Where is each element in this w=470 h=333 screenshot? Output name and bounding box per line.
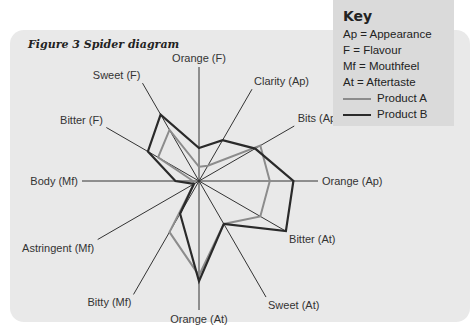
key-abbrev-appearance: Ap = Appearance xyxy=(343,28,432,40)
axis-label: Bitter (At) xyxy=(289,233,335,245)
axis-line xyxy=(199,89,252,181)
legend-label-product-a: Product A xyxy=(377,92,427,104)
legend-swatch-product-b xyxy=(343,114,371,116)
legend-swatch-product-a xyxy=(343,98,371,100)
legend-label-product-b: Product B xyxy=(377,108,428,120)
axis-label: Orange (F) xyxy=(172,52,226,64)
axis-line xyxy=(199,181,286,231)
series-polygon-product-a xyxy=(158,130,270,276)
axis-label: Sweet (At) xyxy=(268,299,319,311)
axis-label: Clarity (Ap) xyxy=(254,75,309,87)
legend-product-b: Product B xyxy=(343,108,428,120)
axis-label: Body (Mf) xyxy=(30,175,78,187)
axis-label: Bitty (Mf) xyxy=(88,296,132,308)
axis-label: Bitter (F) xyxy=(60,114,103,126)
key-abbrev-flavour: F = Flavour xyxy=(343,44,401,56)
axis-label: Astringent (Mf) xyxy=(22,242,94,254)
axis-label: Orange (At) xyxy=(170,313,227,325)
key-abbrev-aftertaste: At = Aftertaste xyxy=(343,76,416,88)
legend-product-a: Product A xyxy=(343,92,427,104)
axis-line xyxy=(199,126,294,181)
key-box: Key Ap = Appearance F = Flavour Mf = Mou… xyxy=(333,0,454,126)
key-title: Key xyxy=(343,8,372,24)
axis-label: Orange (Ap) xyxy=(322,175,383,187)
key-abbrev-mouthfeel: Mf = Mouthfeel xyxy=(343,60,419,72)
axis-line xyxy=(134,181,200,294)
axis-line xyxy=(199,181,266,297)
axis-label: Sweet (F) xyxy=(93,69,141,81)
